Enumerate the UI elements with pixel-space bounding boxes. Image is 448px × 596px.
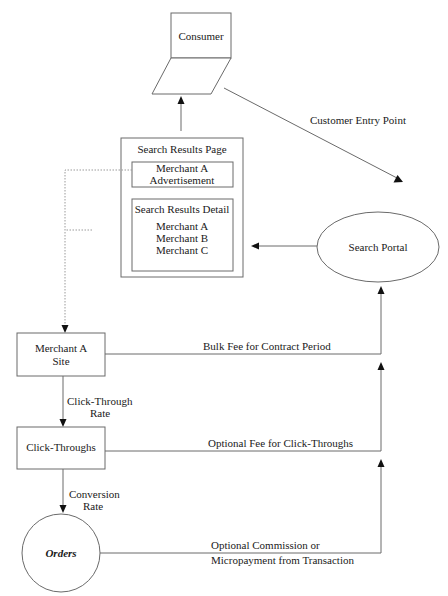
conversion-rate-line1: Conversion (69, 488, 120, 500)
advertisement-line2: Advertisement (150, 174, 215, 186)
merchant-site-node: Merchant A Site (17, 333, 105, 376)
arrowhead-up-icon (378, 286, 385, 294)
click-throughs-node: Click-Throughs (17, 427, 105, 469)
arrowhead-down-icon (60, 505, 67, 513)
click-through-rate-line2: Rate (90, 407, 110, 419)
arrowhead-diag-icon (394, 175, 404, 183)
commission-line2: Micropayment from Transaction (211, 554, 354, 566)
merchant-site-line2: Site (52, 355, 69, 367)
arrowhead-down-icon (60, 419, 67, 427)
merchant-site-line1: Merchant A (35, 342, 87, 354)
search-portal-label: Search Portal (349, 241, 408, 253)
bulk-fee-label: Bulk Fee for Contract Period (203, 340, 331, 352)
results-detail-item: Merchant C (156, 244, 208, 256)
consumer-label: Consumer (178, 30, 224, 42)
click-through-rate-line1: Click-Through (67, 395, 133, 407)
customer-entry-label: Customer Entry Point (310, 114, 406, 126)
click-fee-label: Optional Fee for Click-Throughs (208, 437, 353, 449)
laptop-base (152, 58, 231, 94)
arrowhead-left-icon (251, 243, 259, 250)
results-detail-item: Merchant B (156, 232, 208, 244)
consumer-node: Consumer (152, 13, 231, 94)
results-detail-title: Search Results Detail (135, 203, 230, 215)
search-portal-node: Search Portal (317, 212, 439, 282)
click-throughs-label: Click-Throughs (26, 441, 96, 453)
results-detail-item: Merchant A (156, 220, 208, 232)
commission-line1: Optional Commission or (211, 539, 320, 551)
flow-diagram: Consumer Customer Entry Point Search Res… (0, 0, 448, 596)
consumer-to-portal-line (224, 88, 397, 178)
arrowhead-up-icon (378, 362, 385, 370)
arrowhead-up-icon (178, 96, 185, 104)
orders-node: Orders (22, 514, 100, 592)
arrowhead-up-icon (378, 459, 385, 467)
conversion-rate-line2: Rate (83, 500, 103, 512)
advertisement-line1: Merchant A (156, 162, 208, 174)
arrowhead-down-icon (62, 325, 69, 333)
search-results-page: Search Results Page Merchant A Advertise… (121, 138, 243, 277)
results-page-title: Search Results Page (137, 143, 226, 155)
orders-label: Orders (45, 547, 76, 559)
